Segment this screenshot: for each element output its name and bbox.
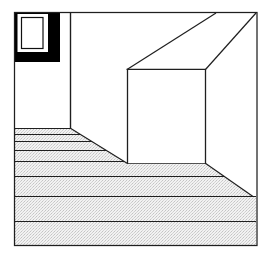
left-wall-window-group (15, 13, 60, 62)
back-wall-group (127, 69, 206, 164)
back-wall-surface (127, 69, 206, 163)
figure-root: Fig. 3 Perspective construction of an in… (0, 0, 270, 261)
perspective-room-drawing (0, 0, 270, 261)
window-glass (22, 18, 44, 49)
